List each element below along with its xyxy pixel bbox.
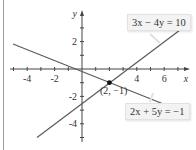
diagram-frame: -4 -2 4 6 x 2 -2 -4 y 3x − 4y = 10 2x + … [0,0,196,150]
x-tick-label: -2 [50,73,58,84]
x-axis-label: x [183,73,189,84]
y-tick-label: 2 [72,36,77,47]
callout-leader [150,34,160,43]
y-axis-label: y [72,8,78,19]
x-tick-label: 6 [162,73,167,84]
x-axis-arrow-icon [184,67,190,71]
equation-text: 3x − 4y = 10 [132,17,186,28]
equation-label-1: 3x − 4y = 10 [127,14,191,31]
equation-text: 2x + 5y = −1 [130,106,185,117]
y-tick-label: -4 [69,118,77,129]
y-axis-arrow-icon [80,10,84,16]
intersection-label: (2, −1) [100,85,127,96]
x-tick-label: 4 [134,73,139,84]
x-tick-label: -4 [23,73,31,84]
equation-label-2: 2x + 5y = −1 [125,103,190,120]
callout-leader [150,93,153,102]
y-tick-label: -2 [69,91,77,102]
